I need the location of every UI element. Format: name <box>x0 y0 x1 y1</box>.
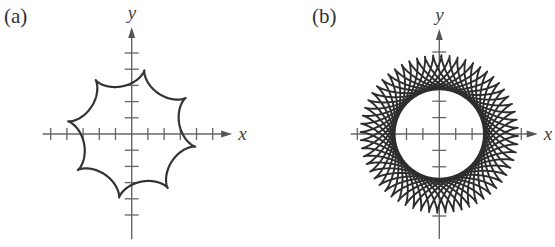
x-axis-arrow-icon <box>221 131 232 138</box>
figure-a-graph: xy <box>43 2 248 239</box>
y-axis-label: y <box>433 4 444 25</box>
x-axis-label: x <box>237 123 247 144</box>
x-axis-label: x <box>543 123 553 144</box>
y-axis-arrow-icon <box>128 27 135 38</box>
x-axis-arrow-icon <box>527 131 538 138</box>
y-axis-label: y <box>126 2 137 23</box>
y-axis-arrow-icon <box>436 29 443 40</box>
figure-b-graph: xy <box>351 4 553 239</box>
plot-canvas: xyxy <box>0 0 555 247</box>
